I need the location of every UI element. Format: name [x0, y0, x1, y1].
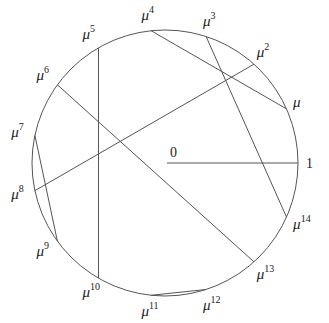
- label-mu-5: μ5: [82, 23, 96, 42]
- label-mu-3: μ3: [202, 10, 216, 29]
- label-mu-9: μ9: [35, 240, 49, 259]
- origin-label: 0: [170, 145, 177, 160]
- label-mu-1: μ: [292, 94, 301, 110]
- label-mu-8: μ8: [10, 183, 24, 202]
- point-labels: μμ2μ3μ4μ5μ6μ7μ8μ9μ10μ11μ12μ13μ14: [10, 4, 310, 319]
- chord-2-8: [35, 64, 254, 190]
- label-mu-4: μ4: [140, 4, 154, 23]
- label-mu-10: μ10: [82, 281, 101, 300]
- label-mu-11: μ11: [140, 300, 158, 319]
- label-mu-12: μ12: [202, 294, 221, 313]
- label-mu-2: μ2: [256, 41, 270, 60]
- label-mu-6: μ6: [35, 64, 49, 83]
- chord-6-13: [57, 85, 254, 262]
- chord-3-14: [206, 37, 286, 218]
- label-mu-7: μ7: [10, 121, 24, 140]
- roots-of-unity-diagram: 0 1 μμ2μ3μ4μ5μ6μ7μ8μ9μ10μ11μ12μ13μ14: [0, 0, 329, 323]
- label-mu-14: μ14: [292, 213, 311, 232]
- unit-label: 1: [306, 156, 313, 171]
- label-mu-13: μ13: [256, 263, 275, 282]
